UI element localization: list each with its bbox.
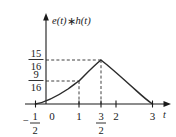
convolution-curve xyxy=(36,60,153,104)
x-tick-label-2: 2 xyxy=(113,110,119,122)
convolution-plot: e(t)∗h(t) t 15 16 9 16 − 1 2 0 1 xyxy=(0,0,176,137)
y-tick-15-16-numerator: 15 xyxy=(31,48,42,59)
x-axis-arrowhead xyxy=(164,101,172,107)
x-tick-label-0: 0 xyxy=(49,110,55,122)
x-tick-label-3: 3 xyxy=(150,110,156,122)
x-tick-minus-half-denominator: 2 xyxy=(32,125,37,136)
x-tick-label-1: 1 xyxy=(76,110,82,122)
y-tick-9-16-denominator: 16 xyxy=(31,82,42,93)
convolution-star-icon: ∗ xyxy=(67,16,76,27)
y-axis-arrowhead xyxy=(43,13,49,21)
x-axis-title: t xyxy=(163,109,166,120)
y-tick-label-9-16: 9 16 xyxy=(29,69,44,93)
y-axis-title-paren1: (t) xyxy=(57,15,67,27)
x-tick-label-3-over-2: 3 2 xyxy=(96,111,106,136)
y-tick-9-16-numerator: 9 xyxy=(33,69,38,80)
x-tick-label-minus-half: − 1 2 xyxy=(23,111,40,136)
x-tick-3-over-2-numerator: 3 xyxy=(98,111,103,122)
svg-text:e(t)∗h(t): e(t)∗h(t) xyxy=(52,15,91,27)
x-tick-3-over-2-denominator: 2 xyxy=(98,125,103,136)
y-axis-title: e(t)∗h(t) xyxy=(52,15,91,27)
x-tick-minus-sign: − xyxy=(23,115,29,126)
x-tick-minus-half-numerator: 1 xyxy=(32,111,37,122)
y-axis-title-paren2: (t) xyxy=(81,15,91,27)
